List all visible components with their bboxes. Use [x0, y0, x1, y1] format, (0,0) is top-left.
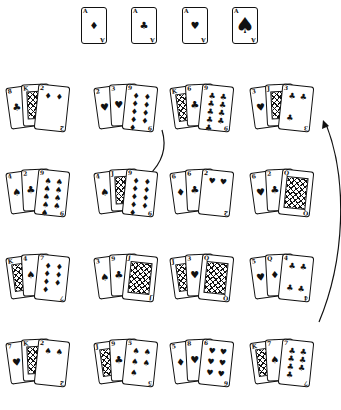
card-index: 5 [171, 343, 176, 350]
pip-grid: ♣♣♣♣♣♣♣♣♣ [205, 92, 227, 124]
card-index: 4 [303, 295, 308, 301]
suit-pip-icon: ♣ [288, 92, 296, 101]
face-card-art [203, 261, 228, 295]
card-index: Q [222, 295, 228, 302]
card-index: 6 [223, 380, 228, 386]
card-index: 4 [23, 255, 27, 261]
card-index: 9 [111, 340, 115, 346]
heart-icon: ♥ [191, 21, 200, 31]
suit-pip-icon: ♣ [285, 114, 293, 123]
suit-pip-icon: ♠ [55, 348, 63, 357]
suit-pip-icon: ♥ [190, 355, 199, 365]
spade-icon: ♠ [235, 15, 255, 37]
ace-of-hearts: A ♥ A [182, 7, 208, 44]
suit-pip-icon: ♠ [12, 187, 22, 198]
suit-pip-icon: ♠ [270, 355, 279, 365]
card-index: 9 [40, 170, 45, 176]
card-index: Q [267, 255, 273, 261]
suit-pip-icon: ♣ [204, 124, 212, 133]
suit-pip-icon: ♥ [256, 187, 266, 198]
card-index: 9 [111, 255, 115, 261]
suit-pip-icon: ♦ [44, 92, 52, 101]
face-card-art [283, 176, 308, 210]
suit-pip-icon: ♣ [270, 185, 279, 195]
suit-pip-icon: ♥ [12, 357, 22, 368]
card-index: 2 [95, 88, 100, 95]
suit-pip-icon: ♦ [270, 270, 279, 280]
suit-pip-icon: ♠ [129, 369, 137, 378]
diamond-icon: ♦ [90, 21, 99, 31]
card-index: 9 [223, 125, 228, 131]
card-index: 8 [7, 88, 12, 95]
pip-grid: ♦♦♦♦♦♦♦♦♦ [129, 92, 151, 124]
card-index: J [149, 295, 152, 301]
suit-pip-icon: ♦ [128, 209, 136, 218]
pip-grid: ♦♦ [41, 92, 63, 124]
card-index: 7 [303, 380, 308, 386]
playing-card: QQ [198, 253, 235, 302]
card-hand: KK7♠77♣♣♣♣♣♣♣7 [252, 337, 324, 395]
card-hand: 4♠42♣29♠♠♠♠♠♠♠♠♠9 [8, 167, 80, 225]
pip-grid: ♥♥♥♥♥♥ [205, 347, 227, 379]
card-index: 4 [95, 173, 100, 180]
playing-card: 2♠♠2 [34, 338, 71, 387]
card-index: 3 [111, 85, 115, 91]
suit-pip-icon: ♦ [176, 187, 186, 198]
pip-grid: ♠♠♠♠♠♠♠♠♠ [41, 177, 63, 209]
suit-pip-icon: ♣ [299, 263, 307, 272]
card-hand: 5♥5Q♦Q4♣♣♣♣4 [252, 252, 324, 310]
playing-card: 9♠♠♠♠♠♠♠♠♠9 [34, 168, 71, 217]
playing-card: 9♦♦♦♦♦♦♦♦♦9 [122, 168, 159, 217]
card-index: A [150, 37, 155, 43]
playing-card: 4♣♣♣♣4 [278, 253, 315, 302]
suit-pip-icon: ♥ [190, 270, 199, 280]
suit-pip-icon: ♠ [143, 348, 151, 357]
suit-pip-icon: ♣ [114, 355, 123, 365]
suit-pip-icon: ♣ [285, 371, 293, 380]
card-index: 4 [284, 255, 289, 261]
card-index: 7 [284, 340, 289, 346]
suit-pip-icon: ♣ [190, 100, 199, 110]
suit-pip-icon: ♣ [288, 262, 296, 271]
card-hand: 2♥23♥39♦♦♦♦♦♦♦♦♦9 [96, 82, 168, 140]
card-hand: KK6♣69♣♣♣♣♣♣♣♣♣9 [172, 82, 244, 140]
suit-pip-icon: ♣ [114, 270, 123, 280]
card-index: 2 [59, 125, 64, 131]
suit-pip-icon: ♠ [132, 347, 140, 356]
playing-card: 3♣♣♣3 [278, 83, 315, 132]
card-index: 7 [40, 255, 45, 261]
card-index: 3 [95, 258, 100, 265]
card-index: 9 [204, 85, 209, 91]
card-index: 3 [303, 125, 308, 131]
card-index: 9 [147, 125, 152, 131]
suit-pip-icon: ♠ [131, 358, 139, 367]
playing-card: 7♦♦♦♦♦♦♦7 [34, 253, 71, 302]
card-index: A [184, 8, 189, 14]
pip-grid: ♣♣♣ [285, 92, 307, 124]
suit-pip-icon: ♣ [190, 185, 199, 195]
card-index: 6 [171, 173, 176, 180]
suit-pip-icon: ♦ [41, 286, 49, 295]
card-index: 9 [59, 210, 64, 216]
card-index: 3 [251, 88, 256, 95]
suit-pip-icon: ♣ [285, 284, 293, 293]
suit-pip-icon: ♣ [26, 185, 35, 195]
suit-pip-icon: ♥ [217, 370, 225, 379]
suit-pip-icon: ♣ [297, 364, 305, 373]
suit-pip-icon: ♥ [207, 358, 215, 367]
card-index: A [251, 37, 256, 43]
card-hand: 6♥62♣2QQ [252, 167, 324, 225]
suit-pip-icon: ♥ [256, 272, 266, 283]
card-index: 2 [59, 380, 64, 386]
pip-grid: ♦♦♦♦♦♦♦♦♦ [129, 177, 151, 209]
card-index: 9 [128, 170, 133, 176]
playing-card: JJ [122, 253, 159, 302]
card-index: A [83, 8, 88, 14]
card-index: Q [302, 210, 308, 217]
club-icon: ♣ [140, 21, 149, 31]
card-hand: 8♣8KK2♦♦2 [8, 82, 80, 140]
playing-card: 7♣♣♣♣♣♣♣7 [278, 338, 315, 387]
card-hand: 7♥7KK2♠♠2 [8, 337, 80, 395]
card-index: 2 [267, 170, 271, 176]
card-index: 5 [251, 258, 256, 265]
